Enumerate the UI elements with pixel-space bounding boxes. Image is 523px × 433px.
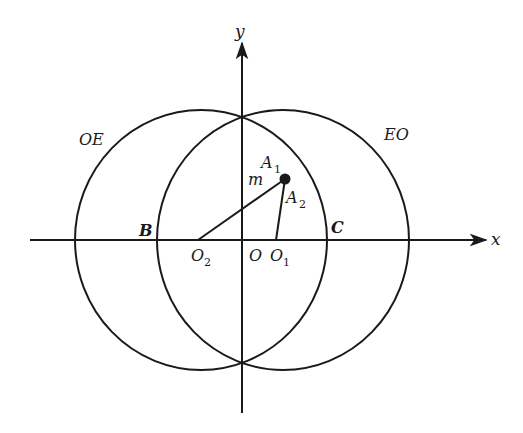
segment-label-m: m <box>248 170 263 189</box>
segment-O1-A1 <box>276 179 285 240</box>
point-label-B: B <box>138 221 153 240</box>
center-label-O2: O <box>191 246 204 265</box>
x-axis-label: x <box>491 229 501 249</box>
y-axis-label: y <box>234 21 245 41</box>
point-label-A1-subscript: 1 <box>274 163 281 176</box>
circle-label-EO: EO <box>383 125 409 144</box>
point-label-C: C <box>331 218 344 237</box>
origin-label: O <box>249 246 262 265</box>
two-circles-diagram: y x OE EO B C O 2 O O 1 A 1 m A 2 <box>0 0 523 433</box>
center-label-O2-subscript: 2 <box>204 256 211 269</box>
segment-label-A2-subscript: 2 <box>299 198 306 211</box>
point-A1 <box>280 174 291 185</box>
segment-label-A2: A <box>284 188 298 207</box>
center-label-O1: O <box>270 246 283 265</box>
circle-label-OE: OE <box>79 130 104 149</box>
center-label-O1-subscript: 1 <box>283 256 290 269</box>
